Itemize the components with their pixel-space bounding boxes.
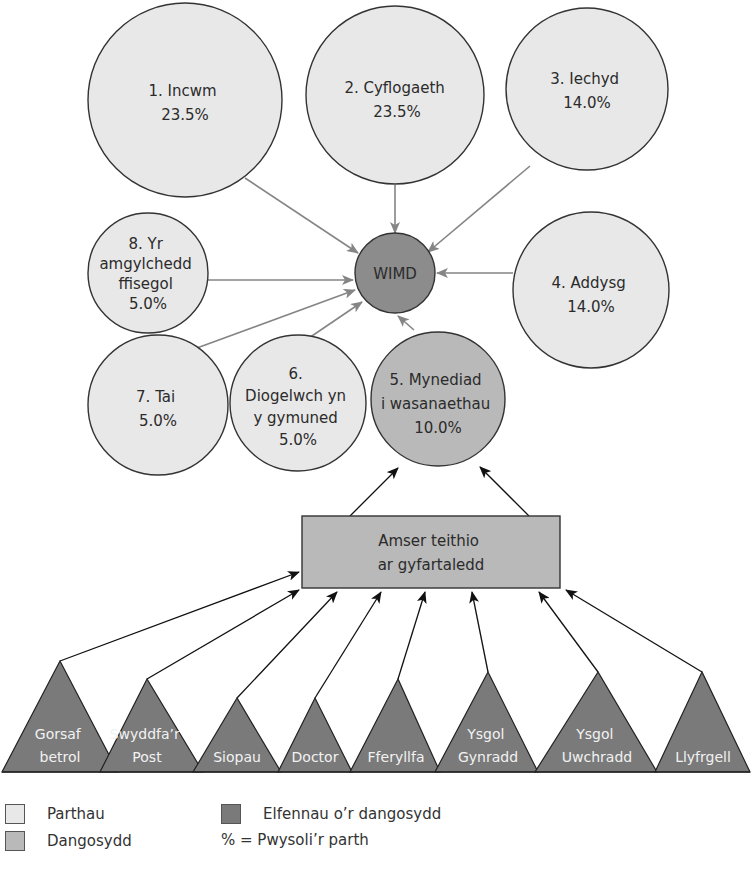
arrow-gorsaf xyxy=(60,572,299,661)
indicator-box xyxy=(302,516,560,588)
legend-label-indicator: Dangosydd xyxy=(47,832,132,850)
arrow-doctor xyxy=(315,592,381,698)
domain-circle-iechyd xyxy=(506,8,668,170)
legend-item-weight-note: % = Pwysoli’r parth xyxy=(221,831,369,849)
domain-circle-incwm xyxy=(88,3,282,197)
legend-item-domains: Parthau xyxy=(5,804,105,824)
legend-label-domains: Parthau xyxy=(47,805,105,823)
arrow-diogelwch xyxy=(306,302,362,340)
arrow-iechyd xyxy=(428,166,530,252)
label-wimd: WIMD xyxy=(373,265,417,283)
swatch-domains-icon xyxy=(5,804,25,824)
arrow-siopau xyxy=(237,592,337,698)
legend-item-elements: Elfennau o’r dangosydd xyxy=(221,804,441,824)
legend-label-elements: Elfennau o’r dangosydd xyxy=(263,805,441,823)
arrow-llyfrgell xyxy=(566,590,702,672)
label-doctor: Doctor xyxy=(292,749,339,765)
arrow-fferyllfa xyxy=(398,592,425,679)
legend: Parthau Dangosydd Elfennau o’r dangosydd… xyxy=(0,800,752,880)
arrow-box-to-mynediad-right xyxy=(480,467,529,516)
wimd-diagram: 1. Incwm 23.5% 2. Cyflogaeth 23.5% 3. Ie… xyxy=(0,0,752,800)
legend-label-weight-note: % = Pwysoli’r parth xyxy=(221,831,369,849)
arrow-mynediad xyxy=(398,316,414,330)
label-fferyllfa: Fferyllfa xyxy=(368,749,425,765)
label-siopau: Siopau xyxy=(213,749,261,765)
swatch-indicator-icon xyxy=(5,831,25,851)
indicator-arrows xyxy=(350,467,529,516)
label-llyfrgell: Llyfrgell xyxy=(675,749,731,765)
arrow-box-to-mynediad-left xyxy=(350,468,398,516)
arrow-ysgol-gynradd xyxy=(472,592,488,672)
arrow-swyddfa xyxy=(147,590,299,679)
legend-item-indicator: Dangosydd xyxy=(5,831,132,851)
arrow-incwm xyxy=(245,178,358,253)
swatch-elements-icon xyxy=(221,804,241,824)
element-arrows xyxy=(60,572,702,698)
domain-circle-amgylchedd xyxy=(88,213,208,333)
